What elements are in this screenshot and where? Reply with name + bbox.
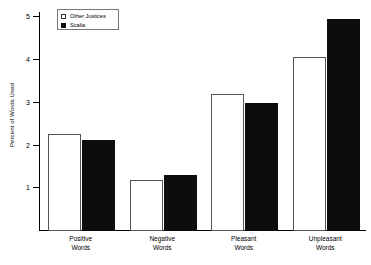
chart-legend: Other Justices Scalia xyxy=(57,9,119,30)
bar-pleasant-words-other-justices xyxy=(211,94,244,231)
x-label-unpleasant-words: UnpleasantWords xyxy=(282,234,368,252)
y-tick-label-4: 4 xyxy=(18,56,30,63)
bar-pleasant-words-scalia xyxy=(245,103,278,231)
legend-item-scalia: Scalia xyxy=(61,21,115,29)
bar-unpleasant-words-other-justices xyxy=(293,57,326,231)
bar-unpleasant-words-scalia xyxy=(327,19,360,231)
legend-label-other-justices: Other Justices xyxy=(70,12,106,20)
legend-label-scalia: Scalia xyxy=(70,21,85,29)
y-tick-2 xyxy=(33,145,39,146)
x-label-pleasant-words: PleasantWords xyxy=(201,234,287,252)
plot-area xyxy=(40,12,366,231)
bar-negative-words-scalia xyxy=(164,175,197,231)
y-tick-label-3: 3 xyxy=(18,99,30,106)
y-tick-5 xyxy=(33,16,39,17)
legend-item-other-justices: Other Justices xyxy=(61,12,115,20)
y-tick-3 xyxy=(33,102,39,103)
y-tick-label-2: 2 xyxy=(18,142,30,149)
y-tick-label-5: 5 xyxy=(18,13,30,20)
bar-positive-words-scalia xyxy=(82,140,115,231)
y-tick-4 xyxy=(33,59,39,60)
bar-chart: Percent of Words Used 12345 PositiveWord… xyxy=(0,0,371,265)
x-label-negative-words: NegativeWords xyxy=(119,234,205,252)
legend-swatch-light-icon xyxy=(61,14,66,19)
bar-negative-words-other-justices xyxy=(130,180,163,231)
y-axis-label: Percent of Words Used xyxy=(6,0,18,230)
x-label-positive-words: PositiveWords xyxy=(38,234,124,252)
y-tick-1 xyxy=(33,187,39,188)
legend-swatch-dark-icon xyxy=(61,23,66,28)
bar-positive-words-other-justices xyxy=(48,134,81,231)
y-tick-label-1: 1 xyxy=(18,184,30,191)
